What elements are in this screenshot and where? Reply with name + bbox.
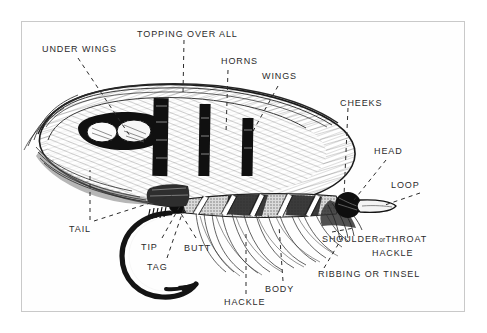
label-shoulder-or-throat: SHOULDERorTHROAT xyxy=(322,234,427,245)
label-tag: TAG xyxy=(147,262,168,273)
label-wings: WINGS xyxy=(262,71,297,82)
label-cheeks: CHEEKS xyxy=(340,98,382,109)
wing-root xyxy=(147,184,190,207)
label-tail: TAIL xyxy=(69,224,91,235)
label-butt: BUTT xyxy=(184,243,211,254)
label-topping-over-all: TOPPING OVER ALL xyxy=(137,29,238,40)
label-ribbing-or-tinsel: RIBBING OR TINSEL xyxy=(318,269,420,280)
label-tip: TIP xyxy=(141,242,158,253)
label-throat-word: THROAT xyxy=(385,234,427,244)
label-hackle: HACKLE xyxy=(224,297,265,308)
label-body: BODY xyxy=(265,284,294,295)
label-head: HEAD xyxy=(374,146,403,157)
loop xyxy=(357,200,396,212)
body xyxy=(183,194,339,217)
label-shoulder-hackle: HACKLE xyxy=(372,248,413,259)
label-horns: HORNS xyxy=(221,56,258,67)
label-shoulder-word: SHOULDER xyxy=(322,234,379,244)
label-under-wings: UNDER WINGS xyxy=(42,44,117,55)
figure-page: UNDER WINGS TOPPING OVER ALL HORNS WINGS… xyxy=(0,0,487,333)
label-loop: LOOP xyxy=(391,180,420,191)
